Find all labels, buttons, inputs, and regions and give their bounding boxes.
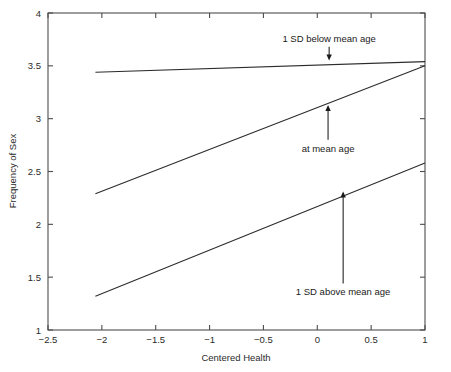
x-axis-tick-labels: −2.5−2−1.5−1−0.500.51 xyxy=(39,334,428,345)
y-axis-tick-labels: 11.522.533.54 xyxy=(28,8,41,336)
y-tick-label: 3 xyxy=(36,113,41,124)
x-tick-label: 0.5 xyxy=(365,334,378,345)
series-line-1-sd-below-mean-age xyxy=(95,62,425,73)
x-tick-label: 0 xyxy=(315,334,320,345)
series-line-1-sd-above-mean-age xyxy=(95,163,425,296)
x-tick-label: −2 xyxy=(96,334,107,345)
x-tick-label: −2.5 xyxy=(39,334,58,345)
annotation-label: 1 SD above mean age xyxy=(296,286,391,297)
x-tick-label: −1.5 xyxy=(146,334,165,345)
annotation-label: 1 SD below mean age xyxy=(282,33,375,44)
annotation-arrows: 1 SD below mean ageat mean age1 SD above… xyxy=(282,33,390,298)
chart-figure: −2.5−2−1.5−1−0.500.51 11.522.533.54 1 SD… xyxy=(0,0,451,372)
y-tick-label: 3.5 xyxy=(28,60,41,71)
series-line-at-mean-age xyxy=(95,66,425,194)
y-tick-label: 2.5 xyxy=(28,166,41,177)
x-axis-title: Centered Health xyxy=(201,352,270,363)
line-chart: −2.5−2−1.5−1−0.500.51 11.522.533.54 1 SD… xyxy=(0,0,451,372)
arrow-head xyxy=(326,55,331,61)
x-tick-label: 1 xyxy=(422,334,427,345)
regression-lines xyxy=(95,62,425,297)
x-tick-label: −0.5 xyxy=(254,334,273,345)
y-axis-ticks xyxy=(48,13,425,330)
annotation-label: at mean age xyxy=(302,143,355,154)
y-tick-label: 1.5 xyxy=(28,272,41,283)
arrow-head xyxy=(325,105,330,111)
y-tick-label: 4 xyxy=(36,8,41,19)
plot-frame xyxy=(48,13,425,330)
y-tick-label: 1 xyxy=(36,325,41,336)
y-axis-title: Frequency of Sex xyxy=(7,134,18,209)
x-axis-ticks xyxy=(48,13,425,330)
y-tick-label: 2 xyxy=(36,219,41,230)
arrow-head xyxy=(340,192,345,198)
x-tick-label: −1 xyxy=(204,334,215,345)
